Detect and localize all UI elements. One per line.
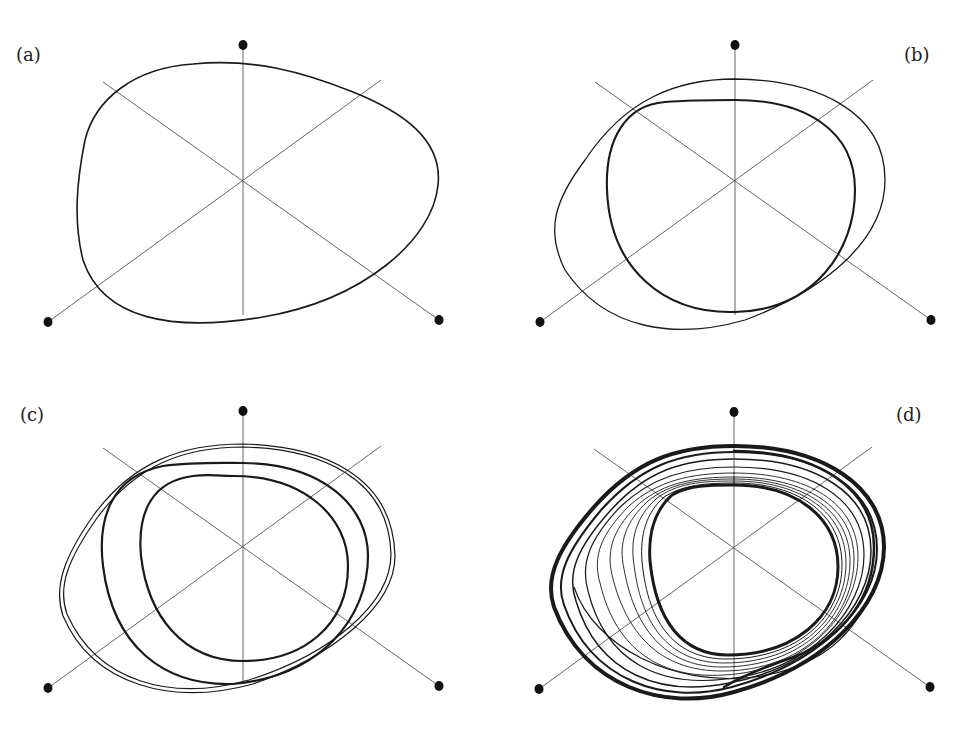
panel-a — [44, 40, 444, 327]
orbit-b-inner — [607, 100, 855, 312]
axes-frame-icon — [44, 406, 444, 693]
panel-c — [44, 406, 444, 693]
orbit-b-outer — [555, 79, 885, 329]
panel-d — [535, 407, 935, 699]
orbit-c-1 — [60, 444, 395, 693]
orbit-c-2 — [64, 447, 391, 689]
chaotic-attractor — [551, 446, 884, 699]
panel-b — [536, 40, 936, 329]
axes-frame-icon — [44, 40, 444, 327]
figure: (a) (b) (c) (d) — [0, 0, 970, 734]
orbit-c-4 — [140, 475, 348, 661]
orbit-c-3 — [102, 463, 368, 684]
figure-canvas — [0, 0, 970, 734]
axes-frame-icon — [536, 40, 936, 327]
